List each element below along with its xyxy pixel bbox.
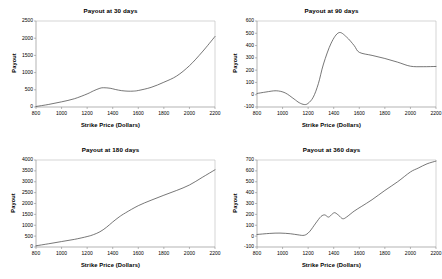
plot-axes xyxy=(36,21,215,107)
plot-canvas xyxy=(221,139,442,278)
data-series-line xyxy=(36,36,215,106)
chart-panel: Payout at 30 days05001000150020002500800… xyxy=(0,0,221,139)
plot-canvas xyxy=(0,139,221,278)
plot-frame xyxy=(257,21,436,107)
plot-frame xyxy=(36,160,215,247)
plot-frame xyxy=(36,21,215,107)
x-axis-label: Strike Price (Dollars) xyxy=(221,262,442,268)
plot-area: -100010020030040050060070080010001200140… xyxy=(221,139,442,278)
chart-grid: Payout at 30 days05001000150020002500800… xyxy=(0,0,442,279)
data-series-line xyxy=(257,161,436,235)
x-axis-label: Strike Price (Dollars) xyxy=(0,262,221,268)
plot-axes xyxy=(36,160,215,247)
chart-panel: Payout at 360 days-100010020030040050060… xyxy=(221,139,442,278)
x-axis-label: Strike Price (Dollars) xyxy=(0,122,221,128)
y-axis-label: Payout xyxy=(232,51,238,75)
y-axis-label: Payout xyxy=(232,191,238,215)
plot-canvas xyxy=(0,0,221,139)
chart-panel: Payout at 180 days0500100015002000250030… xyxy=(0,139,221,278)
plot-area: -100010020030040050060080010001200140016… xyxy=(221,0,442,139)
plot-canvas xyxy=(221,0,442,139)
data-series-line xyxy=(257,32,436,104)
x-axis-label: Strike Price (Dollars) xyxy=(221,122,442,128)
y-axis-label: Payout xyxy=(11,51,17,75)
y-axis-label: Payout xyxy=(10,191,16,215)
plot-axes xyxy=(257,21,436,107)
plot-area: 0500100015002000250030003500400080010001… xyxy=(0,139,221,278)
data-series-line xyxy=(36,170,215,246)
chart-panel: Payout at 90 days-1000100200300400500600… xyxy=(221,0,442,139)
plot-area: 0500100015002000250080010001200140016001… xyxy=(0,0,221,139)
